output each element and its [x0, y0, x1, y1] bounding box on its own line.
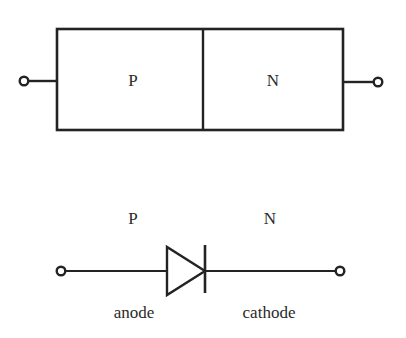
p-region-label: P	[128, 71, 137, 90]
anode-terminal-node-top[interactable]	[20, 77, 29, 86]
anode-terminal-node[interactable]	[57, 267, 66, 276]
figure-root: P N P N	[0, 0, 406, 338]
cathode-terminal-node-top[interactable]	[374, 78, 383, 87]
diode-triangle	[167, 247, 205, 295]
cathode-terminal-node[interactable]	[336, 267, 345, 276]
symbol-n-label: N	[264, 209, 276, 228]
semiconductor-body-rect	[57, 29, 343, 130]
anode-label: anode	[114, 303, 155, 322]
diode-symbol: P N anode cathode	[57, 209, 345, 322]
n-region-label: N	[267, 71, 279, 90]
pn-junction-figure: P N P N	[0, 0, 406, 338]
cathode-label: cathode	[243, 303, 296, 322]
symbol-p-label: P	[128, 209, 137, 228]
pn-junction-block: P N	[20, 29, 383, 130]
